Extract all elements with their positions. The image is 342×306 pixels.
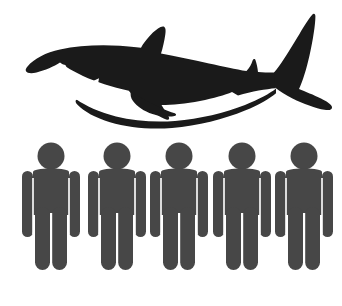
person-head [38, 143, 65, 170]
person-leg-left [163, 207, 178, 270]
person-arm-left [213, 171, 224, 237]
person-leg-left [226, 207, 241, 270]
person-torso [161, 169, 197, 216]
person-arm-right [69, 171, 80, 237]
leg-gap [303, 213, 305, 268]
person-torso [286, 169, 322, 216]
person-leg-left [101, 207, 116, 270]
leg-gap [241, 213, 243, 268]
person-arm-right [197, 171, 208, 237]
arm-gap [285, 178, 287, 234]
person-torso [224, 169, 260, 216]
person-arm-left [22, 171, 33, 237]
person-arm-left [150, 171, 161, 237]
leg-gap [178, 213, 180, 268]
arm-gap [259, 178, 261, 234]
person-arm-right [322, 171, 333, 237]
person-arm-left [88, 171, 99, 237]
person-head [166, 143, 193, 170]
shark-eye-icon [60, 65, 67, 72]
person-leg-left [288, 207, 303, 270]
arm-gap [321, 178, 323, 234]
person-head [229, 143, 256, 170]
person-head [104, 143, 131, 170]
person-arm-right [135, 171, 146, 237]
person-arm-right [260, 171, 271, 237]
arm-gap [196, 178, 198, 234]
person-arm-left [275, 171, 286, 237]
person-leg-right [243, 207, 258, 270]
person-leg-right [118, 207, 133, 270]
leg-gap [50, 213, 52, 268]
person-leg-right [305, 207, 320, 270]
person-head [291, 143, 318, 170]
arm-gap [160, 178, 162, 234]
arm-gap [223, 178, 225, 234]
person-torso [33, 169, 69, 216]
arm-gap [68, 178, 70, 234]
infographic-canvas [0, 0, 342, 306]
scene-svg [0, 0, 342, 306]
person-leg-right [180, 207, 195, 270]
arm-gap [32, 178, 34, 234]
person-leg-right [52, 207, 67, 270]
arm-gap [134, 178, 136, 234]
person-leg-left [35, 207, 50, 270]
arm-gap [98, 178, 100, 234]
person-torso [99, 169, 135, 216]
leg-gap [116, 213, 118, 268]
